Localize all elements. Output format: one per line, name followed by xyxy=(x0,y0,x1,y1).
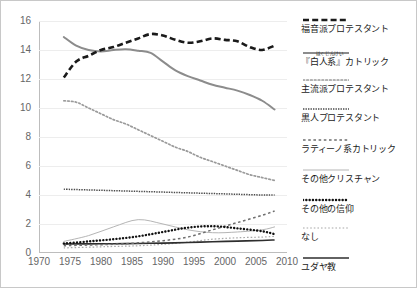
legend-item[interactable]: その他クリスチャン xyxy=(301,167,417,185)
legend-label: 福音派プロテスタント xyxy=(301,24,417,35)
y-tick-label: 8 xyxy=(5,132,31,142)
legend-label: 黒人プロテスタント xyxy=(301,113,417,124)
plot-area xyxy=(39,21,287,253)
series-line xyxy=(64,101,275,181)
chart-figure: 0246810121416 19701975198019851990199520… xyxy=(0,0,417,288)
legend-item[interactable]: その他の信仰 xyxy=(301,197,417,215)
chart-lines xyxy=(39,21,287,253)
series-line xyxy=(64,37,275,110)
legend-label: 主流派プロテスタント xyxy=(301,84,417,95)
series-line xyxy=(64,189,275,195)
legend-item[interactable]: なし xyxy=(301,225,417,243)
legend-item[interactable]: 主流派プロテスタント xyxy=(301,77,417,95)
legend-label: ラティーノ系カトリック xyxy=(301,144,417,155)
series-line xyxy=(64,236,275,248)
legend-swatch xyxy=(303,225,349,231)
legend-swatch xyxy=(303,255,349,261)
legend-swatch xyxy=(303,106,349,112)
ruby-text: はくじんけい xyxy=(316,51,344,56)
legend-label: ユダヤ教 xyxy=(301,262,417,273)
legend-label: その他の信仰 xyxy=(301,204,417,215)
legend-label: その他クリスチャン xyxy=(301,174,417,185)
series-line xyxy=(64,34,275,78)
legend-swatch xyxy=(303,167,349,173)
legend-item[interactable]: 福音派プロテスタント xyxy=(301,17,417,35)
legend-label: なし xyxy=(301,232,417,243)
legend-swatch xyxy=(303,197,349,203)
legend-item[interactable]: 『はくじんけい白人系』カトリック xyxy=(301,50,417,68)
legend-item[interactable]: ラティーノ系カトリック xyxy=(301,137,417,155)
legend-swatch xyxy=(303,137,349,143)
ruby-base: はくじんけい白人系 xyxy=(310,57,336,68)
legend-item[interactable]: ユダヤ教 xyxy=(301,255,417,273)
legend-item[interactable]: 黒人プロテスタント xyxy=(301,106,417,124)
y-tick-label: 10 xyxy=(5,103,31,113)
y-tick-label: 6 xyxy=(5,161,31,171)
legend-label: 『はくじんけい白人系』カトリック xyxy=(301,57,417,68)
y-tick-label: 2 xyxy=(5,219,31,229)
y-tick-label: 4 xyxy=(5,190,31,200)
y-tick-label: 16 xyxy=(5,16,31,26)
legend-swatch xyxy=(303,17,349,23)
y-tick-label: 14 xyxy=(5,45,31,55)
y-tick-label: 12 xyxy=(5,74,31,84)
legend-swatch xyxy=(303,77,349,83)
